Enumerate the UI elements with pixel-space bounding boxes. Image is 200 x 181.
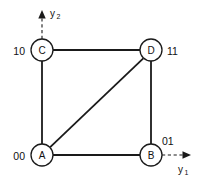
edge-group <box>42 50 151 155</box>
axis-y2-label-base: y <box>50 8 55 19</box>
node-b-code-label: 01 <box>162 135 174 147</box>
axis-y1-label-group: y 1 <box>178 164 189 177</box>
node-d-code-label: 11 <box>167 45 178 57</box>
graph-diagram-figure: C 10 D 11 A 00 B 01 y 2 y 1 <box>0 0 200 181</box>
axis-y1-arrowhead-icon <box>183 151 192 158</box>
axis-y1-label-subscript: 1 <box>185 169 189 176</box>
node-a[interactable]: A 00 <box>13 144 53 166</box>
node-d-label: D <box>147 45 154 56</box>
node-b[interactable]: B 01 <box>140 135 174 166</box>
axis-y2-label-subscript: 2 <box>57 13 61 20</box>
node-c-code-label: 10 <box>13 45 25 57</box>
node-a-label: A <box>39 150 46 161</box>
axis-y2-group <box>38 10 45 39</box>
axis-y2-arrowhead-icon <box>38 10 45 19</box>
axis-y1-group <box>162 151 191 158</box>
axis-y1-label-base: y <box>178 164 183 175</box>
axis-y2-label-group: y 2 <box>50 8 61 21</box>
edge-a-d-diagonal <box>50 58 143 147</box>
node-d[interactable]: D 11 <box>140 39 178 61</box>
node-a-code-label: 00 <box>13 150 25 162</box>
diagram-canvas: C 10 D 11 A 00 B 01 y 2 y 1 <box>0 0 200 181</box>
node-c[interactable]: C 10 <box>13 39 53 61</box>
node-c-label: C <box>38 45 45 56</box>
node-b-label: B <box>148 150 155 161</box>
